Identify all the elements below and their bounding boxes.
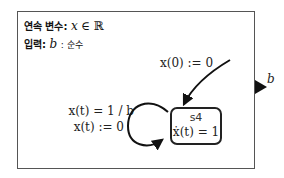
input-port-triangle-icon bbox=[255, 80, 267, 94]
initial-transition-arrow bbox=[184, 60, 230, 104]
transitions-layer bbox=[0, 0, 284, 178]
input-port-label: b bbox=[267, 72, 275, 86]
self-loop-arrow bbox=[128, 104, 168, 146]
